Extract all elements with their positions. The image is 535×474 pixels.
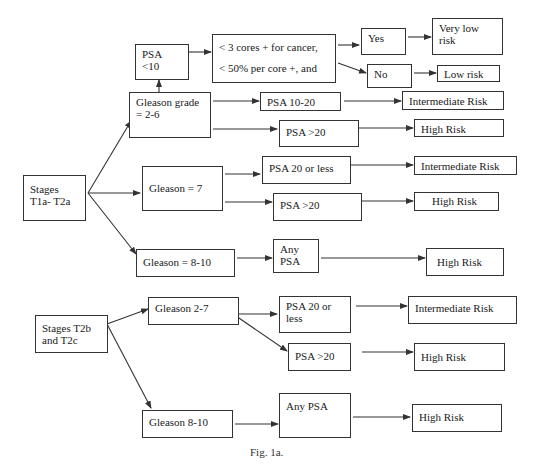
node-text: PSA bbox=[280, 255, 312, 267]
node-text: High Risk bbox=[419, 411, 495, 423]
node-text: Any PSA bbox=[286, 400, 344, 412]
node-text: PSA 10-20 bbox=[267, 96, 334, 108]
node-text: <10 bbox=[142, 60, 182, 72]
node-text: risk bbox=[439, 34, 496, 46]
node-text: High Risk bbox=[421, 123, 497, 135]
node-text: Intermediate Risk bbox=[409, 95, 497, 107]
node-text: PSA >20 bbox=[280, 199, 355, 211]
node-text: Gleason grade bbox=[136, 96, 204, 108]
risk-stratification-diagram: PSA <10 < 3 cores + for cancer, < 50% pe… bbox=[0, 0, 535, 474]
node-text: T1a- T2a bbox=[30, 195, 79, 207]
node-psa-gt20-3: PSA >20 bbox=[288, 343, 351, 371]
node-psa-lt10: PSA <10 bbox=[135, 44, 189, 80]
node-intermediate-risk-2: Intermediate Risk bbox=[414, 156, 517, 175]
node-text: Intermediate Risk bbox=[415, 302, 510, 314]
node-text: Gleason = 7 bbox=[149, 182, 216, 194]
node-psa-gt20-1: PSA >20 bbox=[279, 120, 359, 147]
node-psa-gt20-2: PSA >20 bbox=[273, 193, 362, 221]
node-stages-t2b-t2c: Stages T2b and T2c bbox=[35, 315, 108, 353]
node-text: < 3 cores + for cancer, bbox=[219, 41, 329, 53]
node-text: High Risk bbox=[432, 195, 492, 207]
node-text: Very low bbox=[439, 22, 496, 34]
node-text: No bbox=[374, 68, 405, 80]
node-psa-20-or-less-2: PSA 20 or less bbox=[279, 296, 351, 333]
node-text: Any bbox=[280, 243, 312, 255]
node-gleason-7: Gleason = 7 bbox=[142, 166, 223, 211]
node-text: Stages bbox=[30, 183, 79, 195]
node-very-low-risk: Very low risk bbox=[432, 18, 503, 55]
node-text: PSA 20 or less bbox=[269, 162, 344, 174]
node-high-risk-3: High Risk bbox=[426, 248, 504, 276]
node-intermediate-risk-3: Intermediate Risk bbox=[408, 296, 517, 324]
node-gleason-8-10-1: Gleason = 8-10 bbox=[136, 249, 235, 277]
figure-caption: Fig. 1a. bbox=[250, 446, 283, 458]
node-text: PSA 20 or bbox=[286, 300, 344, 312]
node-text: Stages T2b bbox=[42, 322, 101, 334]
node-psa-20-or-less-1: PSA 20 or less bbox=[262, 156, 351, 184]
node-yes: Yes bbox=[361, 28, 406, 55]
node-gleason-2-6: Gleason grade = 2-6 bbox=[129, 92, 211, 138]
node-intermediate-risk-1: Intermediate Risk bbox=[402, 91, 504, 110]
node-any-psa-1: Any PSA bbox=[273, 239, 319, 273]
node-text: PSA >20 bbox=[286, 126, 352, 138]
node-text: Intermediate Risk bbox=[421, 160, 510, 172]
node-no: No bbox=[367, 64, 412, 88]
node-psa-10-20: PSA 10-20 bbox=[260, 92, 341, 111]
node-text: Gleason 2-7 bbox=[155, 302, 232, 314]
node-text: Gleason = 8-10 bbox=[143, 256, 228, 268]
node-text: Yes bbox=[368, 32, 399, 44]
node-gleason-2-7: Gleason 2-7 bbox=[148, 297, 239, 325]
node-text: = 2-6 bbox=[136, 108, 204, 120]
node-gleason-8-10-2: Gleason 8-10 bbox=[142, 410, 233, 438]
node-text: PSA bbox=[142, 48, 182, 60]
node-text: less bbox=[286, 312, 344, 324]
node-high-risk-5: High Risk bbox=[412, 404, 502, 432]
node-text: High Risk bbox=[421, 351, 498, 363]
node-high-risk-1: High Risk bbox=[414, 119, 504, 137]
node-text: < 50% per core +, and bbox=[219, 62, 329, 74]
node-text: Low risk bbox=[444, 68, 493, 80]
node-any-psa-2: Any PSA bbox=[279, 393, 351, 438]
node-text: PSA >20 bbox=[295, 350, 344, 362]
node-text: Gleason 8-10 bbox=[149, 416, 226, 428]
node-text: and T2c bbox=[42, 334, 101, 346]
node-high-risk-4: High Risk bbox=[414, 343, 505, 371]
node-low-risk: Low risk bbox=[437, 65, 500, 82]
node-text: High Risk bbox=[437, 256, 497, 268]
node-stages-t1a-t2a: Stages T1a- T2a bbox=[23, 175, 86, 221]
node-biopsy-criteria: < 3 cores + for cancer, < 50% per core +… bbox=[212, 34, 336, 83]
node-high-risk-2: High Risk bbox=[414, 192, 499, 211]
